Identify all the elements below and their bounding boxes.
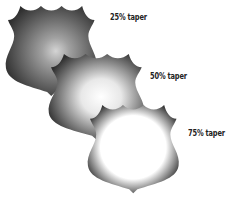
- label-75-taper: 75% taper: [188, 128, 225, 138]
- taper-figure: 25% taper 50% taper 75% taper: [0, 0, 232, 199]
- label-50-taper: 50% taper: [150, 71, 187, 81]
- label-25-taper: 25% taper: [110, 12, 147, 22]
- shield-75: [88, 105, 179, 193]
- shields-canvas: [0, 0, 232, 199]
